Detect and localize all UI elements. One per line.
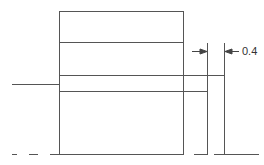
diagram-svg: [0, 0, 264, 165]
arrow-right-icon: [200, 49, 207, 54]
main-box: [60, 12, 184, 155]
dimension-label: 0.4: [242, 46, 257, 57]
arrow-left-icon: [225, 49, 232, 54]
technical-diagram: 0.4: [0, 0, 264, 165]
dimension-arrows: [192, 49, 239, 54]
